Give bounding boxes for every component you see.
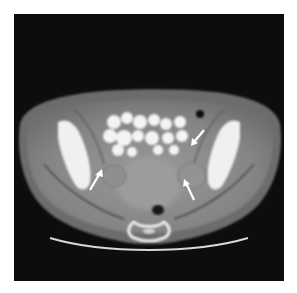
left-ovary <box>102 165 126 187</box>
ct-axial-pelvis-scan <box>14 14 284 281</box>
uterus <box>117 158 181 210</box>
rectal-gas <box>152 205 164 215</box>
right-ovary <box>178 163 206 189</box>
sacral-body <box>143 228 155 234</box>
ct-image-frame <box>14 14 284 281</box>
bowel-gas <box>196 110 204 118</box>
